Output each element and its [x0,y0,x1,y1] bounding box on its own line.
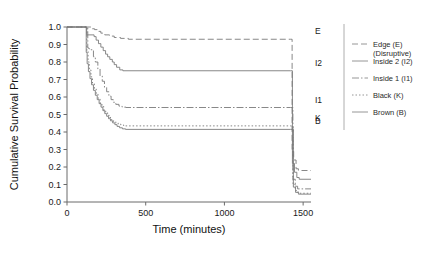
y-tick-label: 0.3 [48,145,61,155]
x-tick-label: 500 [138,208,153,218]
series-label-E: E [315,26,321,36]
y-tick-label: 0.1 [48,180,61,190]
series-label-I2: I2 [315,58,322,68]
legend-label: Brown (B) [373,108,407,117]
y-axis-title: Cumulative Survival Probability [8,38,20,190]
series-line-I1 [67,27,311,189]
legend-item[interactable]: Inside 1 (I1) [352,74,413,83]
x-tick-label: 0 [64,208,69,218]
legend: Edge (E)(Disruptive)Inside 2 (I2)Inside … [344,24,413,130]
y-tick-label: 0.8 [48,57,61,67]
x-axis-title: Time (minutes) [153,223,226,235]
x-axis: 050010001500 [64,202,313,218]
series-line-B [67,27,311,194]
legend-item[interactable]: Black (K) [352,91,404,100]
series-label-B: B [315,116,321,126]
y-tick-label: 0.4 [48,127,61,137]
series-group: EI2I1KB [67,26,322,194]
legend-item[interactable]: Edge (E)(Disruptive) [352,40,412,58]
y-tick-label: 0.2 [48,162,61,172]
y-tick-label: 0.6 [48,92,61,102]
y-tick-label: 1.0 [48,22,61,32]
chart-canvas: 0.00.10.20.30.40.50.60.70.80.91.00500100… [0,0,436,258]
legend-label: Inside 1 (I1) [373,74,413,83]
series-line-I2 [67,27,311,179]
y-tick-label: 0.5 [48,110,61,120]
legend-item[interactable]: Inside 2 (I2) [352,57,413,66]
x-tick-label: 1500 [293,208,313,218]
series-label-I1: I1 [315,95,322,105]
legend-item[interactable]: Brown (B) [352,108,407,117]
series-line-K [67,27,311,193]
x-tick-label: 1000 [214,208,234,218]
y-tick-label: 0.7 [48,75,61,85]
legend-label: Inside 2 (I2) [373,57,413,66]
survival-plot-figure: 0.00.10.20.30.40.50.60.70.80.91.00500100… [0,0,436,258]
y-tick-label: 0.9 [48,40,61,50]
legend-label: Black (K) [373,91,404,100]
y-tick-label: 0.0 [48,197,61,207]
y-axis: 0.00.10.20.30.40.50.60.70.80.91.0 [48,22,67,207]
